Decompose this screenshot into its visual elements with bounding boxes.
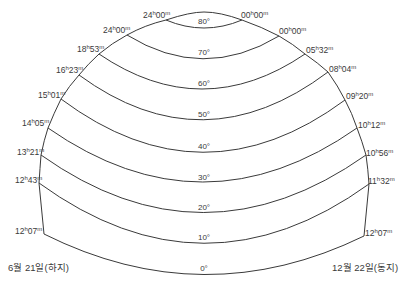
right-time-30: 10h12m (358, 120, 385, 130)
right-time-20: 10h56m (366, 148, 393, 158)
left-time-50: 16h23m (56, 65, 83, 75)
degree-label-20: 20° (198, 203, 210, 213)
degree-label-70: 70° (198, 48, 210, 58)
left-time-0: 12h07m (15, 226, 42, 236)
degree-label-10: 10° (198, 233, 210, 243)
right-time-70: 00h00m (279, 26, 306, 36)
left-date-label: 6월 21일(하지) (8, 262, 69, 274)
right-time-80: 00h00m (241, 10, 268, 20)
degree-label-40: 40° (198, 142, 210, 152)
right-time-10: 11h32m (368, 176, 395, 186)
degree-label-60: 60° (198, 79, 210, 89)
degree-label-80: 80° (198, 17, 210, 27)
right-time-40: 09h20m (346, 91, 373, 101)
sun-altitude-diagram: 80° 70° 60° 50° 40° 30° 20° 10° 0° 24h00… (0, 0, 404, 287)
left-time-40: 15h01m (38, 90, 65, 100)
left-time-60: 18h53m (77, 44, 104, 54)
right-time-50: 08h04m (329, 64, 356, 74)
left-time-70: 24h00m (103, 25, 130, 35)
degree-label-0: 0° (200, 264, 208, 274)
right-time-60: 05h32m (306, 45, 333, 55)
right-date-label: 12월 22일(동지) (332, 262, 398, 274)
degree-label-30: 30° (198, 173, 210, 183)
right-time-0: 12h07m (365, 228, 392, 238)
left-time-80: 24h00m (143, 10, 170, 20)
left-time-10: 12h43m (15, 175, 42, 185)
left-time-30: 14h05m (22, 118, 49, 128)
degree-label-50: 50° (198, 110, 210, 120)
left-time-20: 13h21m (17, 147, 44, 157)
